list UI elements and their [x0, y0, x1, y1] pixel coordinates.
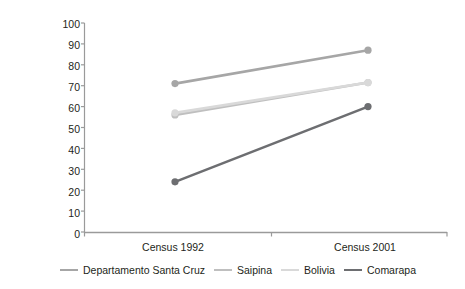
data-point-marker	[171, 80, 178, 87]
data-point-marker	[364, 103, 371, 110]
legend: Departamento Santa Cruz Saipina Bolivia …	[60, 261, 450, 279]
legend-item-comarapa[interactable]: Comarapa	[344, 265, 416, 276]
legend-item-departamento-santa-cruz[interactable]: Departamento Santa Cruz	[60, 265, 205, 276]
legend-swatch-icon	[281, 269, 299, 271]
legend-swatch-icon	[60, 269, 78, 271]
legend-label: Comarapa	[367, 265, 416, 276]
data-point-marker	[171, 109, 178, 116]
data-series	[171, 103, 371, 185]
legend-label: Departamento Santa Cruz	[83, 265, 205, 276]
series-line	[175, 107, 368, 182]
axes	[81, 23, 447, 237]
data-series-layer	[171, 47, 371, 186]
line-chart: % of population with access to potable w…	[0, 0, 465, 289]
plot-area	[0, 0, 465, 289]
series-line	[175, 83, 368, 113]
legend-item-bolivia[interactable]: Bolivia	[281, 265, 335, 276]
legend-swatch-icon	[344, 269, 362, 271]
series-line	[175, 50, 368, 83]
data-point-marker	[171, 178, 178, 185]
legend-swatch-icon	[214, 269, 232, 271]
data-point-marker	[364, 79, 371, 86]
legend-item-saipina[interactable]: Saipina	[214, 265, 272, 276]
data-series	[171, 47, 371, 88]
legend-label: Bolivia	[304, 265, 335, 276]
legend-label: Saipina	[237, 265, 272, 276]
data-point-marker	[364, 47, 371, 54]
